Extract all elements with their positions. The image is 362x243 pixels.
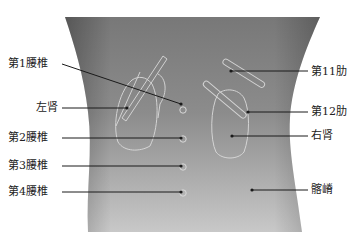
label-12th-rib: 第12肋 bbox=[311, 106, 347, 118]
label-left-kidney: 左肾 bbox=[36, 102, 58, 114]
leader-endpoint-dot bbox=[230, 134, 233, 137]
label-l4-vertebra: 第4腰椎 bbox=[8, 186, 48, 198]
diagram-canvas: 第1腰椎 左肾 第2腰椎 第3腰椎 第4腰椎 第11肋 第12肋 右肾 髂嵴 bbox=[0, 0, 362, 243]
back-anatomy-figure bbox=[0, 0, 362, 243]
label-l3-vertebra: 第3腰椎 bbox=[8, 160, 48, 172]
label-iliac-crest: 髂嵴 bbox=[311, 184, 333, 196]
leader-endpoint-dot bbox=[125, 106, 128, 109]
leader-endpoint-dot bbox=[179, 164, 182, 167]
leader-endpoint-dot bbox=[179, 136, 182, 139]
label-l2-vertebra: 第2腰椎 bbox=[8, 132, 48, 144]
label-11th-rib: 第11肋 bbox=[311, 66, 347, 78]
leader-endpoint-dot bbox=[246, 110, 249, 113]
label-right-kidney: 右肾 bbox=[311, 130, 333, 142]
leader-endpoint-dot bbox=[250, 188, 253, 191]
leader-endpoint-dot bbox=[179, 190, 182, 193]
leader-endpoint-dot bbox=[179, 102, 182, 105]
label-l1-vertebra: 第1腰椎 bbox=[8, 58, 48, 70]
leader-endpoint-dot bbox=[229, 69, 232, 72]
